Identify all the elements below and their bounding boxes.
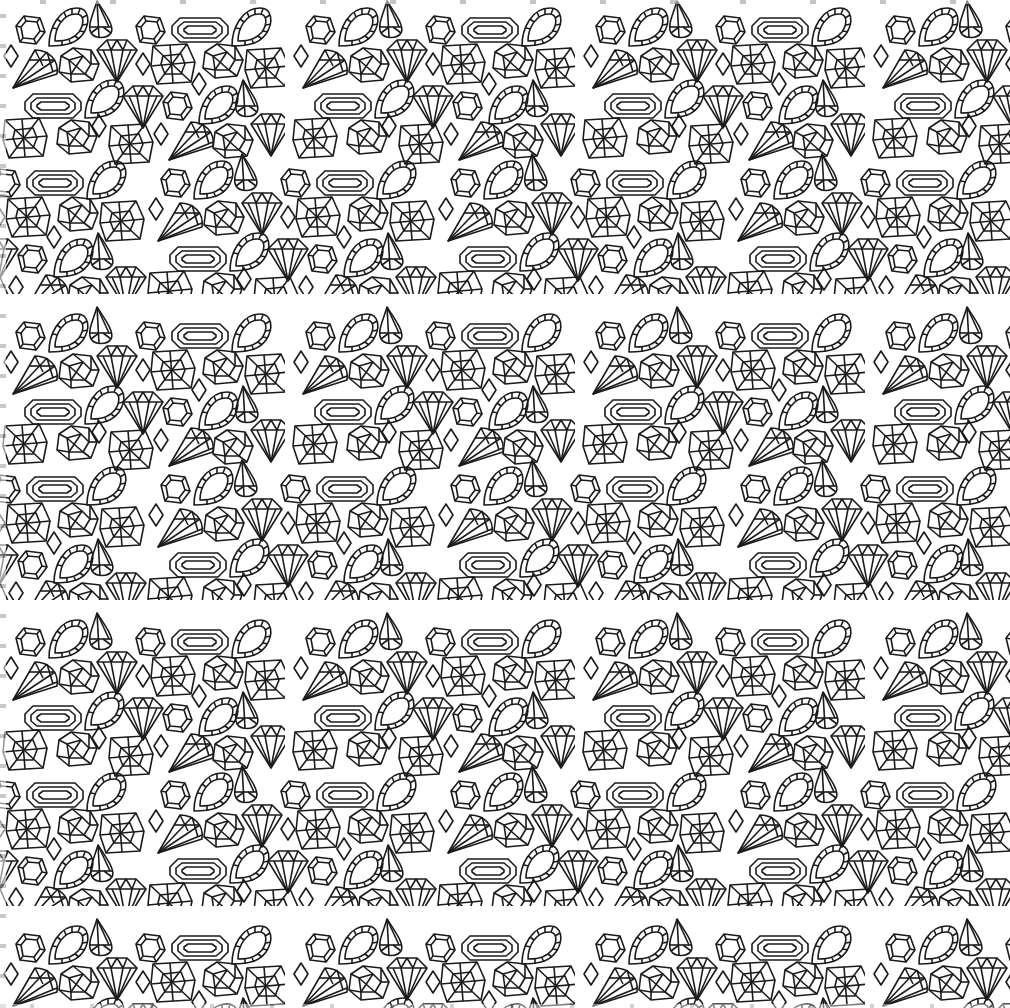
gem-pattern-fill: [0, 0, 1010, 1008]
left-edge-artifact: [0, 0, 6, 1008]
top-edge-artifact: [0, 0, 1010, 4]
bottom-edge-artifact: [0, 1004, 1010, 1008]
gem-pattern-canvas: [0, 0, 1010, 1008]
